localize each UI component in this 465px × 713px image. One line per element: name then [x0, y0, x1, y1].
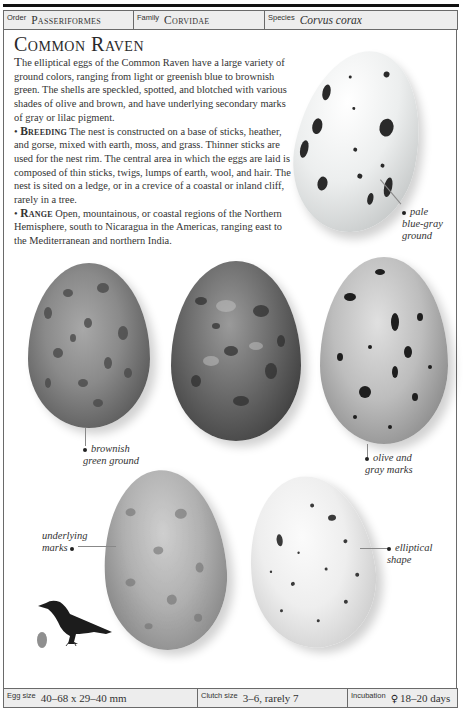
callout-text: pale [410, 206, 428, 217]
drop-cap: T [14, 54, 22, 69]
family-cell: Family Corvidae [134, 11, 265, 29]
raven-icon [36, 596, 116, 646]
egg-spots-icon [239, 468, 386, 656]
incubation-value: 18–20 days [400, 692, 450, 704]
callout-text: marks [42, 542, 68, 553]
callout-text: ground [402, 230, 443, 242]
family-label: Family [137, 13, 159, 22]
clutch-size-cell: Clutch size 3–6, rarely 7 [198, 689, 348, 707]
top-rule [3, 4, 459, 7]
callout-dot-icon [402, 211, 406, 215]
range-paragraph: • Range Open, mountainous, or coastal re… [14, 207, 294, 248]
egg-size-label: Egg size [7, 691, 36, 700]
species-cell: Species Corvus corax [265, 11, 457, 29]
family-value: Corvidae [164, 14, 209, 26]
egg-underlying-marks [98, 466, 232, 654]
order-value: Passeriformes [31, 14, 101, 26]
range-text: Open, mountainous, or coastal regions of… [14, 208, 282, 246]
egg-spots-icon [28, 263, 150, 428]
page-title: Common Raven [14, 33, 144, 56]
egg-olive-gray [320, 257, 448, 444]
callout-dot-icon [83, 448, 87, 452]
egg-spots-icon [98, 466, 232, 654]
callout-dot-icon [365, 457, 369, 461]
incubation-cell: Incubation ♀ 18–20 days [348, 689, 457, 707]
clutch-size-value: 3–6, rarely 7 [243, 692, 299, 704]
callout-text: brownish [91, 443, 130, 454]
bullet-icon: • [14, 126, 18, 137]
callout-text: elliptical [395, 542, 432, 553]
scale-egg-icon [37, 632, 47, 648]
callout-text: green ground [83, 455, 139, 467]
egg-size-value: 40–68 x 29–40 mm [41, 692, 127, 704]
egg-spots-icon [320, 257, 448, 444]
callout-brownish-green: brownish green ground [83, 443, 139, 467]
callout-underlying-marks: underlying marks [42, 530, 88, 554]
order-cell: Order Passeriformes [4, 11, 134, 29]
species-value: Corvus corax [300, 14, 362, 26]
description-text: The elliptical eggs of the Common Raven … [14, 55, 294, 248]
callout-text: gray marks [365, 464, 413, 476]
intro-text: he elliptical eggs of the Common Raven h… [14, 57, 287, 123]
callout-text: olive and [373, 452, 412, 463]
bullet-icon: • [14, 208, 18, 219]
range-heading: Range [20, 207, 52, 219]
callout-olive-gray: olive and gray marks [365, 452, 413, 476]
callout-dot-icon [70, 547, 74, 551]
egg-elliptical-white [239, 468, 386, 656]
female-symbol-icon: ♀ [391, 693, 398, 704]
callout-pale-blue-gray: pale blue-gray ground [402, 206, 443, 242]
egg-brownish-green [28, 263, 150, 428]
callout-text: shape [387, 554, 432, 566]
incubation-label: Incubation [351, 691, 386, 700]
stats-bar: Egg size 40–68 x 29–40 mm Clutch size 3–… [3, 688, 458, 708]
elliptical-leader-line [360, 548, 388, 549]
breeding-text: The nest is constructed on a base of sti… [14, 126, 291, 206]
callout-text: blue-gray [402, 218, 443, 230]
callout-text: underlying [42, 530, 88, 542]
egg-spots-icon [171, 261, 301, 441]
callout-dot-icon [387, 547, 391, 551]
breeding-paragraph: • Breeding The nest is constructed on a … [14, 125, 294, 207]
clutch-size-label: Clutch size [201, 691, 238, 700]
egg-size-cell: Egg size 40–68 x 29–40 mm [4, 689, 198, 707]
intro-paragraph: The elliptical eggs of the Common Raven … [14, 55, 294, 125]
breeding-heading: Breeding [20, 125, 67, 137]
species-label: Species [268, 13, 295, 22]
callout-elliptical-shape: elliptical shape [387, 542, 432, 566]
order-label: Order [7, 13, 26, 22]
egg-dark-speckled [171, 261, 301, 441]
taxonomy-bar: Order Passeriformes Family Corvidae Spec… [3, 10, 458, 30]
